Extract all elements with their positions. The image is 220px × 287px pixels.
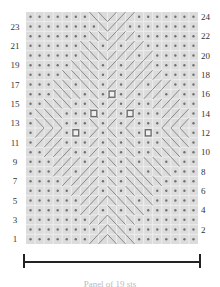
row-number-10: 10 xyxy=(201,147,215,157)
row-number-9: 9 xyxy=(8,157,22,167)
row-number-6: 6 xyxy=(201,186,215,196)
row-number-1: 1 xyxy=(8,234,22,244)
row-number-11: 11 xyxy=(8,138,22,148)
chart-caption: Panel of 19 sts xyxy=(0,279,220,287)
row-number-20: 20 xyxy=(201,51,215,61)
row-number-4: 4 xyxy=(201,205,215,215)
bracket-bar xyxy=(23,261,201,263)
row-number-24: 24 xyxy=(201,12,215,22)
row-number-7: 7 xyxy=(8,176,22,186)
row-number-15: 15 xyxy=(8,99,22,109)
row-number-22: 22 xyxy=(201,31,215,41)
row-number-5: 5 xyxy=(8,196,22,206)
row-number-19: 19 xyxy=(8,60,22,70)
row-number-14: 14 xyxy=(201,109,215,119)
row-number-17: 17 xyxy=(8,80,22,90)
row-number-3: 3 xyxy=(8,215,22,225)
bracket-right-tick xyxy=(199,254,201,268)
row-number-2: 2 xyxy=(201,225,215,235)
row-number-16: 16 xyxy=(201,89,215,99)
row-number-18: 18 xyxy=(201,70,215,80)
knitting-chart-grid xyxy=(26,12,198,244)
row-number-23: 23 xyxy=(8,22,22,32)
row-number-21: 21 xyxy=(8,41,22,51)
stitch-repeat-bracket xyxy=(23,254,201,268)
row-number-13: 13 xyxy=(8,118,22,128)
row-number-12: 12 xyxy=(201,128,215,138)
row-number-8: 8 xyxy=(201,167,215,177)
